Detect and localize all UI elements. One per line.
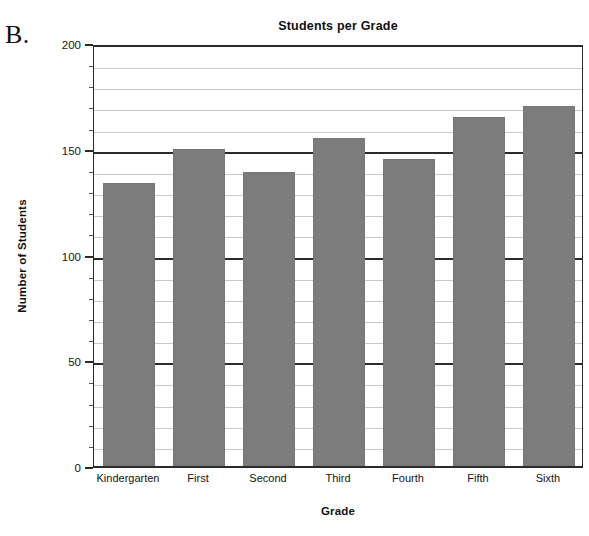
bar [383,159,435,466]
bar [453,117,505,466]
y-tick-label: 150 [62,145,81,157]
y-tick-label: 100 [62,251,81,263]
y-axis: 050100150200 [0,0,93,536]
x-tick-label: First [187,472,208,484]
y-tick-major [85,467,93,469]
x-tick-label: Fourth [392,472,424,484]
x-tick-label: Second [249,472,286,484]
y-tick-major [85,150,93,152]
x-tick-label: Third [325,472,350,484]
y-tick-major [85,361,93,363]
bar [243,172,295,466]
y-tick-major [85,256,93,258]
y-axis-title: Number of Students [16,199,28,313]
bar [523,106,575,466]
y-tick-label: 200 [62,39,81,51]
x-tick-label: Fifth [467,472,488,484]
bar [173,149,225,466]
y-tick-label: 50 [68,356,81,368]
y-tick-major [85,44,93,46]
bar [313,138,365,466]
bar-series [94,47,582,466]
x-tick-label: Sixth [536,472,560,484]
bar [103,183,155,466]
x-axis-title: Grade [93,505,583,517]
x-axis-tick-labels: KindergartenFirstSecondThirdFourthFifthS… [93,472,583,492]
y-tick-label: 0 [75,462,81,474]
chart-title: Students per Grade [93,19,583,33]
plot-area [93,45,583,468]
figure-panel-b: B. Students per Grade 050100150200 Numbe… [0,0,589,536]
x-tick-label: Kindergarten [97,472,160,484]
